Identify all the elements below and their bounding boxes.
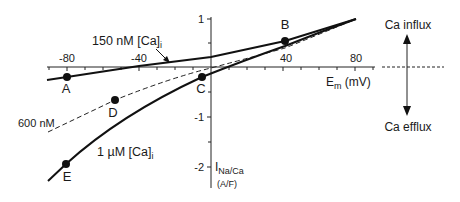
series-label-600nM: 600 nM <box>18 117 55 129</box>
point-C <box>198 73 206 81</box>
arrow-up-icon <box>403 34 411 44</box>
x-axis-label: Em (mV) <box>326 75 371 91</box>
point-B <box>281 37 289 45</box>
point-label-C: C <box>196 81 205 96</box>
x-tick-label: 80 <box>350 52 362 64</box>
point-D <box>111 96 119 104</box>
y-tick-label: -1 <box>194 111 204 123</box>
series-label-1uM: 1 µM [Ca]i <box>97 145 153 161</box>
y-tick-label: -2 <box>194 161 204 173</box>
point-label-D: D <box>108 105 117 120</box>
y-axis-unit: (A/F) <box>217 179 237 189</box>
influx-label: Ca influx <box>385 18 432 32</box>
iv-chart: -80 -40 40 80 Em (mV) 1 -1 -2 INa/Ca (A/… <box>0 0 460 202</box>
curve-150nM <box>47 19 356 80</box>
efflux-label: Ca efflux <box>384 120 431 134</box>
series-label-150nM: 150 nM [Ca]i <box>92 34 162 50</box>
y-tick-label: 1 <box>198 13 204 25</box>
point-label-E: E <box>63 169 72 184</box>
x-tick-label: -80 <box>59 52 75 64</box>
x-tick-label: 40 <box>280 52 292 64</box>
y-axis-label: INa/Ca <box>215 160 244 176</box>
point-A <box>63 73 71 81</box>
point-label-B: B <box>281 17 290 32</box>
flux-legend: Ca influx Ca efflux <box>382 18 444 134</box>
arrow-down-icon <box>403 106 411 116</box>
y-axis: 1 -1 -2 INa/Ca (A/F) <box>194 13 244 189</box>
x-tick-label: -40 <box>131 52 147 64</box>
point-label-A: A <box>62 81 71 96</box>
point-E <box>62 160 70 168</box>
